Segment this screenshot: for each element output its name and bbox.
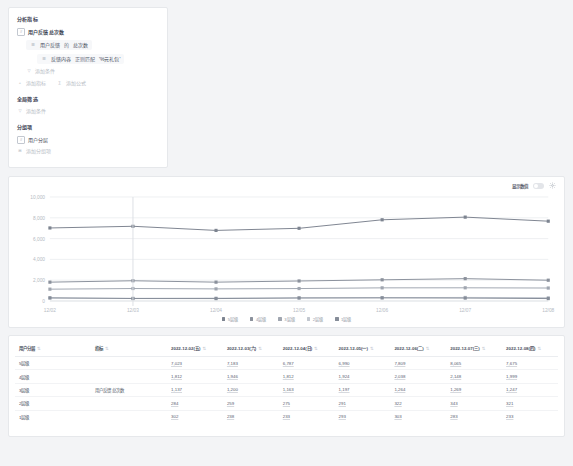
- condition-value: '%元礼包': [99, 57, 120, 62]
- cell-value[interactable]: 1,137: [167, 383, 223, 396]
- cell-metric: [91, 410, 167, 423]
- cell-value[interactable]: 283: [446, 410, 502, 423]
- filter-icon: ▽: [17, 108, 23, 114]
- cell-value[interactable]: 2,038: [390, 370, 446, 383]
- metric-aggregation: 总次数: [73, 43, 88, 48]
- cell-value[interactable]: 7,809: [390, 357, 446, 370]
- add-metric-button[interactable]: + 添加指标: [17, 79, 46, 86]
- cell-value[interactable]: 1,999: [502, 370, 558, 383]
- cell-value[interactable]: 8,065: [446, 357, 502, 370]
- metric-definition-chip[interactable]: ☰ 用户反馈 的 总次数: [26, 40, 92, 50]
- column-label: 2022-12-03(六): [227, 346, 256, 351]
- data-table-card: 用户分层⇅指标⇅2022-12-02(五)⇅2022-12-03(六)⇅2022…: [8, 335, 565, 437]
- table-column-header[interactable]: 2022-12-04(日)⇅: [279, 342, 335, 357]
- cell-value[interactable]: 1,812: [279, 370, 335, 383]
- svg-text:12/05: 12/05: [293, 308, 305, 313]
- cell-value[interactable]: 238: [223, 410, 279, 423]
- cell-value[interactable]: 1,924: [335, 370, 391, 383]
- table-column-header[interactable]: 2022-12-02(五)⇅: [167, 342, 223, 357]
- cell-value[interactable]: 2,148: [446, 370, 502, 383]
- svg-text:12/08: 12/08: [542, 308, 554, 313]
- cell-value[interactable]: 321: [502, 397, 558, 410]
- column-label: 用户分层: [19, 346, 35, 351]
- table-row: 4层级1,8121,9461,8121,9242,0382,1481,999: [15, 370, 558, 383]
- metric-definition-row[interactable]: ☰ 用户反馈 的 总次数: [17, 40, 159, 50]
- metric-condition-row[interactable]: ☰ 反馈内容 正则匹配 '%元礼包': [17, 54, 159, 64]
- sort-icon[interactable]: ⇅: [482, 346, 486, 351]
- sort-icon[interactable]: ⇅: [537, 346, 541, 351]
- sort-icon[interactable]: ⇅: [370, 346, 374, 351]
- group-row[interactable]: # 用户分层: [17, 136, 159, 144]
- cell-value[interactable]: 1,200: [223, 383, 279, 396]
- cell-value[interactable]: 343: [446, 397, 502, 410]
- metric-event: 用户反馈: [40, 43, 60, 48]
- table-column-header[interactable]: 用户分层⇅: [15, 342, 91, 357]
- legend-item[interactable]: 4层级: [250, 316, 266, 322]
- cell-value[interactable]: 6,787: [279, 357, 335, 370]
- cell-value[interactable]: 293: [335, 410, 391, 423]
- cell-value[interactable]: 275: [279, 397, 335, 410]
- sort-icon[interactable]: ⇅: [37, 346, 41, 351]
- sort-icon[interactable]: ⇅: [105, 346, 109, 351]
- table-column-header[interactable]: 2022-12-08(四)⇅: [502, 342, 558, 357]
- legend-label: 3层级: [284, 316, 294, 322]
- group-label: 用户分层: [28, 138, 48, 143]
- legend-item[interactable]: 1层级: [335, 316, 351, 322]
- svg-text:12/07: 12/07: [459, 308, 471, 313]
- cell-value[interactable]: 1,197: [335, 383, 391, 396]
- sort-icon[interactable]: ⇅: [202, 346, 206, 351]
- column-label: 2022-12-05(一): [339, 346, 368, 351]
- cell-value[interactable]: 7,023: [167, 357, 223, 370]
- global-add-condition-button[interactable]: ▽ 添加条件: [17, 108, 159, 114]
- show-value-toggle[interactable]: [533, 183, 544, 189]
- table-header-row: 用户分层⇅指标⇅2022-12-02(五)⇅2022-12-03(六)⇅2022…: [15, 342, 558, 357]
- cell-value[interactable]: 1,247: [502, 383, 558, 396]
- add-condition-inner-button[interactable]: ▽ 添加条件: [17, 68, 159, 74]
- table-column-header[interactable]: 2022-12-05(一)⇅: [335, 342, 391, 357]
- cell-value[interactable]: 7,675: [502, 357, 558, 370]
- add-formula-button[interactable]: ∑ 添加公式: [57, 79, 86, 86]
- svg-text:10,000: 10,000: [30, 195, 45, 200]
- cell-metric: [91, 397, 167, 410]
- cell-value[interactable]: 6,990: [335, 357, 391, 370]
- cell-value[interactable]: 1,269: [446, 383, 502, 396]
- cell-value[interactable]: 284: [167, 397, 223, 410]
- sort-icon[interactable]: ⇅: [258, 346, 262, 351]
- legend-label: 5层级: [228, 316, 238, 322]
- legend-item[interactable]: 2层级: [307, 316, 323, 322]
- cell-value[interactable]: 233: [502, 410, 558, 423]
- cell-tier: 5层级: [15, 357, 91, 370]
- gear-icon[interactable]: [549, 182, 556, 189]
- cell-value[interactable]: 7,183: [223, 357, 279, 370]
- metric-row[interactable]: # 用户反馈 总次数: [17, 28, 159, 36]
- table-row: 1层级302238233293303283233: [15, 410, 558, 423]
- cell-value[interactable]: 233: [279, 410, 335, 423]
- svg-text:12/03: 12/03: [127, 308, 139, 313]
- cell-value[interactable]: 322: [390, 397, 446, 410]
- cell-value[interactable]: 302: [167, 410, 223, 423]
- cell-value[interactable]: 1,946: [223, 370, 279, 383]
- svg-text:0: 0: [42, 299, 45, 304]
- table-column-header[interactable]: 2022-12-03(六)⇅: [223, 342, 279, 357]
- legend-label: 1层级: [341, 316, 351, 322]
- cell-value[interactable]: 1,163: [279, 383, 335, 396]
- table-column-header[interactable]: 指标⇅: [91, 342, 167, 357]
- sort-icon[interactable]: ⇅: [314, 346, 318, 351]
- condition-chip[interactable]: ☰ 反馈内容 正则匹配 '%元礼包': [37, 54, 124, 64]
- add-group-button[interactable]: ⊞ 添加分组项: [17, 148, 159, 154]
- table-head: 用户分层⇅指标⇅2022-12-02(五)⇅2022-12-03(六)⇅2022…: [15, 342, 558, 357]
- legend-item[interactable]: 5层级: [222, 316, 238, 322]
- cell-value[interactable]: 1,264: [390, 383, 446, 396]
- legend-swatch: [222, 317, 226, 321]
- cell-value[interactable]: 1,812: [167, 370, 223, 383]
- cell-value[interactable]: 291: [335, 397, 391, 410]
- table-column-header[interactable]: 2022-12-07(三)⇅: [446, 342, 502, 357]
- table-column-header[interactable]: 2022-12-06(二)⇅: [390, 342, 446, 357]
- legend-label: 4层级: [256, 316, 266, 322]
- cell-value[interactable]: 259: [223, 397, 279, 410]
- legend-item[interactable]: 3层级: [278, 316, 294, 322]
- legend-swatch: [250, 317, 254, 321]
- sort-icon[interactable]: ⇅: [426, 346, 430, 351]
- svg-text:2,000: 2,000: [33, 278, 45, 283]
- cell-value[interactable]: 303: [390, 410, 446, 423]
